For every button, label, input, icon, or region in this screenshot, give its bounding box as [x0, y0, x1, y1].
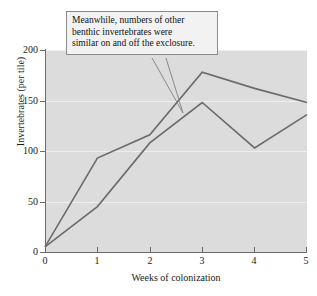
x-tick-2 — [150, 247, 151, 253]
x-axis-line — [45, 252, 307, 253]
x-axis-title: Weeks of colonization — [45, 272, 307, 283]
x-tick-3 — [202, 247, 203, 253]
x-tick-0 — [45, 247, 46, 253]
x-tick-1 — [97, 247, 98, 253]
x-tick-label-3: 3 — [192, 255, 212, 266]
y-tick-50 — [40, 202, 46, 203]
x-tick-label-0: 0 — [35, 255, 55, 266]
chart-figure: 200 150 100 50 0 0 1 2 3 4 5 Invertebrat… — [0, 0, 317, 296]
y-tick-100 — [40, 151, 46, 152]
y-tick-200 — [40, 50, 46, 51]
x-tick-label-2: 2 — [140, 255, 160, 266]
x-tick-4 — [254, 247, 255, 253]
y-tick-label-50: 50 — [6, 197, 38, 207]
x-tick-label-1: 1 — [87, 255, 107, 266]
x-tick-label-4: 4 — [244, 255, 264, 266]
gridline-150 — [45, 101, 307, 102]
y-tick-label-0: 0 — [6, 247, 38, 257]
annotation-line-1: Meanwhile, numbers of other — [72, 15, 212, 27]
annotation-line-3: similar on and off the exclosure. — [72, 38, 212, 50]
annotation-callout: Meanwhile, numbers of other benthic inve… — [66, 11, 218, 55]
annotation-line-2: benthic invertebrates were — [72, 27, 212, 39]
gridline-50 — [45, 202, 307, 203]
x-tick-label-5: 5 — [296, 255, 316, 266]
gridline-100 — [45, 151, 307, 152]
y-tick-150 — [40, 101, 46, 102]
x-tick-5 — [306, 247, 307, 253]
y-axis-title: Invertebrates (per tile) — [15, 22, 26, 182]
